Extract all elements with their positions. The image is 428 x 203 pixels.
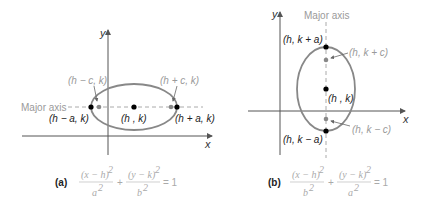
bottom-focus-point — [324, 117, 329, 122]
left-vertex-point — [88, 104, 93, 109]
major-axis-label: Major axis — [304, 10, 350, 21]
panel-a-equation: (x − h) 2 a 2 + (y − k) 2 b 2 = 1 — [79, 164, 178, 198]
svg-text:a: a — [348, 187, 353, 198]
panel-a: y x Major axis (h − c, k) (h + c, k) (h … — [21, 27, 215, 198]
right-vertex-label: (h + a, k) — [175, 113, 215, 124]
bottom-vertex-point — [323, 128, 328, 133]
x-axis-label: x — [402, 113, 409, 125]
top-vertex-label: (h, k + a) — [283, 34, 323, 45]
right-vertex-point — [174, 104, 179, 109]
svg-text:2: 2 — [319, 164, 324, 175]
top-vertex-point — [323, 44, 328, 49]
y-axis-label: y — [271, 8, 279, 20]
svg-text:= 1: = 1 — [374, 177, 389, 188]
top-focus-point — [324, 58, 329, 63]
svg-text:2: 2 — [108, 164, 113, 175]
panel-b: y x Major axis (h, k + a) (h, k + c) (h … — [248, 8, 409, 198]
svg-text:2: 2 — [309, 182, 314, 193]
svg-text:+: + — [117, 177, 123, 188]
right-focus-point — [169, 105, 174, 110]
x-axis-label: x — [204, 138, 211, 150]
svg-text:b: b — [137, 187, 142, 198]
svg-text:+: + — [328, 177, 334, 188]
panel-a-caption: (a) — [55, 177, 67, 188]
svg-text:= 1: = 1 — [163, 177, 178, 188]
svg-text:2: 2 — [98, 182, 103, 193]
svg-text:(y − k): (y − k) — [128, 169, 156, 181]
panel-b-caption: (b) — [268, 177, 281, 188]
right-focus-label: (h + c, k) — [160, 75, 199, 86]
center-point — [323, 86, 328, 91]
svg-text:a: a — [92, 187, 97, 198]
top-focus-label: (h, k + c) — [349, 47, 388, 58]
svg-text:2: 2 — [143, 182, 148, 193]
center-label: (h , k) — [121, 113, 147, 124]
left-focus-point — [97, 105, 102, 110]
left-focus-label: (h − c, k) — [68, 75, 107, 86]
svg-text:(x − h): (x − h) — [81, 169, 110, 181]
bottom-focus-label: (h, k − c) — [352, 124, 391, 135]
svg-text:b: b — [303, 187, 308, 198]
bottom-vertex-label: (h, k − a) — [283, 134, 323, 145]
center-point — [131, 104, 136, 109]
svg-text:(x − h): (x − h) — [292, 169, 321, 181]
panel-b-equation: (x − h) 2 b 2 + (y − k) 2 a 2 = 1 — [290, 164, 389, 198]
svg-text:2: 2 — [155, 164, 160, 175]
major-axis-label: Major axis — [21, 102, 67, 113]
ellipse-diagrams: y x Major axis (h − c, k) (h + c, k) (h … — [0, 0, 428, 203]
svg-text:2: 2 — [354, 182, 359, 193]
y-axis-label: y — [99, 27, 107, 39]
left-vertex-label: (h − a, k) — [49, 113, 89, 124]
center-label: (h , k) — [328, 93, 354, 104]
svg-text:(y − k): (y − k) — [339, 169, 367, 181]
svg-text:2: 2 — [366, 164, 371, 175]
